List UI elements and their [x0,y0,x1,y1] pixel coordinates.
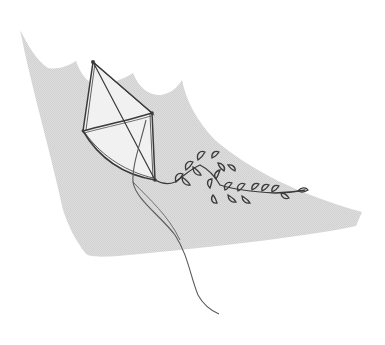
kite-illustration: Pencil sketch of a kite with a leafy tai… [0,0,385,345]
kite-sketch-svg [0,0,385,345]
background-shape [20,30,362,257]
